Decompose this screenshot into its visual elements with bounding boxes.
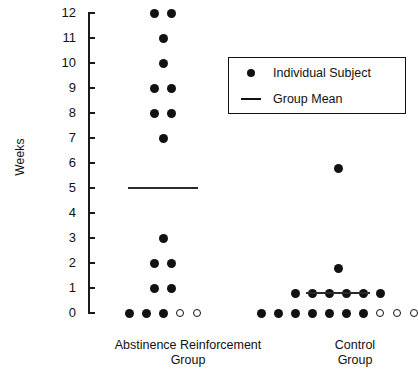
y-axis-tick (88, 237, 95, 239)
data-point-open (176, 309, 184, 317)
data-point-filled (150, 9, 159, 18)
x-axis-label-line-1: Abstinence Reinforcement (78, 338, 298, 353)
data-point-filled (359, 309, 368, 318)
data-point-filled (334, 164, 343, 173)
y-axis-tick-label: 11 (50, 31, 76, 44)
y-axis-tick (88, 137, 95, 139)
data-point-filled (334, 264, 343, 273)
y-axis-tick (88, 37, 95, 39)
data-point-filled (159, 309, 168, 318)
data-point-filled (150, 284, 159, 293)
data-point-open (193, 309, 201, 317)
legend-item-individual-subject: Individual Subject (229, 60, 405, 86)
legend-label-group-mean: Group Mean (273, 92, 342, 106)
legend: Individual Subject Group Mean (228, 57, 406, 114)
data-point-filled (167, 284, 176, 293)
group-mean-line (306, 292, 370, 294)
y-axis-tick (88, 87, 95, 89)
x-axis-label-line-2: Group (300, 353, 410, 368)
data-point-filled (342, 309, 351, 318)
y-axis-tick-label: 4 (50, 206, 76, 219)
data-point-filled (257, 309, 266, 318)
data-point-filled (150, 84, 159, 93)
legend-label-individual-subject: Individual Subject (273, 66, 371, 80)
data-point-filled (159, 34, 168, 43)
data-point-filled (159, 134, 168, 143)
data-point-filled (167, 259, 176, 268)
y-axis-tick (88, 262, 95, 264)
y-axis-tick (88, 212, 95, 214)
legend-item-group-mean: Group Mean (229, 86, 405, 112)
y-axis-tick-label: 12 (50, 6, 76, 19)
x-axis-label-control-group: Control Group (300, 338, 410, 368)
y-axis-tick (88, 312, 95, 314)
data-point-filled (167, 109, 176, 118)
y-axis-tick (88, 12, 95, 14)
group-mean-line (128, 187, 198, 189)
data-point-filled (376, 289, 385, 298)
data-point-open (410, 309, 418, 317)
y-axis-tick-label: 9 (50, 81, 76, 94)
data-point-filled (325, 309, 334, 318)
y-axis-tick-label: 0 (50, 306, 76, 319)
data-point-filled (167, 9, 176, 18)
y-axis-tick-label: 6 (50, 156, 76, 169)
y-axis-tick-label: 3 (50, 231, 76, 244)
data-point-filled (308, 309, 317, 318)
filled-dot-icon (229, 69, 273, 77)
horizontal-line-icon (229, 98, 273, 100)
y-axis-tick-label: 1 (50, 281, 76, 294)
y-axis-tick (88, 62, 95, 64)
y-axis-tick-label: 7 (50, 131, 76, 144)
y-axis-tick (88, 287, 95, 289)
data-point-filled (274, 309, 283, 318)
x-axis-label-abstinence-reinforcement-group: Abstinence Reinforcement Group (78, 338, 298, 368)
x-axis-label-line-2: Group (78, 353, 298, 368)
data-point-filled (159, 59, 168, 68)
y-axis-tick (88, 112, 95, 114)
y-axis-tick-label: 10 (50, 56, 76, 69)
data-point-filled (167, 84, 176, 93)
data-point-open (393, 309, 401, 317)
data-point-filled (291, 309, 300, 318)
y-axis-tick-label: 2 (50, 256, 76, 269)
x-axis-label-line-1: Control (300, 338, 410, 353)
y-axis-tick-label: 8 (50, 106, 76, 119)
data-point-open (376, 309, 384, 317)
y-axis-tick (88, 187, 95, 189)
y-axis-title: Weeks (13, 117, 27, 197)
data-point-filled (125, 309, 134, 318)
data-point-filled (159, 234, 168, 243)
data-point-filled (142, 309, 151, 318)
y-axis-tick-label: 5 (50, 181, 76, 194)
data-point-filled (291, 289, 300, 298)
y-axis-tick (88, 162, 95, 164)
data-point-filled (150, 259, 159, 268)
data-point-filled (150, 109, 159, 118)
